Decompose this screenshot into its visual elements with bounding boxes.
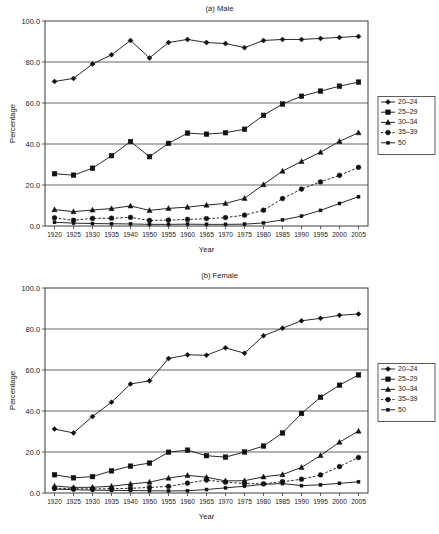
- marker-square: [223, 455, 228, 460]
- marker-square-small: [357, 195, 360, 198]
- x-tick-label: 1920: [47, 498, 62, 505]
- marker-circle: [356, 455, 361, 460]
- marker-square: [204, 453, 209, 458]
- marker-square: [242, 450, 247, 455]
- marker-diamond: [204, 40, 209, 45]
- x-tick-label: 1985: [275, 498, 290, 505]
- x-tick-label: 1940: [123, 498, 138, 505]
- x-tick-label: 1930: [85, 498, 100, 505]
- y-tick-label: 100.0: [22, 284, 41, 293]
- marker-square: [52, 472, 57, 477]
- marker-square: [318, 89, 323, 94]
- marker-square-small: [243, 223, 246, 226]
- marker-square-small: [205, 223, 208, 226]
- marker-square: [90, 474, 95, 479]
- x-tick-label: 1990: [294, 231, 309, 238]
- marker-square: [223, 130, 228, 135]
- marker-circle: [280, 196, 285, 201]
- marker-diamond: [299, 318, 304, 323]
- marker-square-small: [91, 222, 94, 225]
- marker-square: [386, 377, 391, 382]
- legend-label-25-29: 25–29: [398, 375, 418, 382]
- marker-square-small: [224, 223, 227, 226]
- marker-triangle: [356, 130, 361, 135]
- marker-square-small: [72, 222, 75, 225]
- marker-square: [280, 431, 285, 436]
- marker-triangle: [299, 465, 304, 470]
- marker-square-small: [129, 222, 132, 225]
- marker-diamond: [204, 353, 209, 358]
- x-tick-label: 1990: [294, 498, 309, 505]
- marker-diamond: [242, 45, 247, 50]
- legend-label-20-24: 20–24: [398, 365, 418, 372]
- marker-square-small: [186, 489, 189, 492]
- x-tick-label: 1965: [199, 498, 214, 505]
- marker-square-small: [262, 483, 265, 486]
- panel-male: (a) Male0.020.040.060.080.0100.019201925…: [0, 0, 439, 267]
- series-line-35-39: [55, 458, 359, 489]
- chart-female-plot: (b) Female0.020.040.060.080.0100.0192019…: [0, 267, 439, 534]
- x-tick-label: 1930: [85, 231, 100, 238]
- chart-female-svg: (b) Female0.020.040.060.080.0100.0192019…: [0, 267, 439, 534]
- marker-square: [386, 110, 391, 115]
- x-tick-label: 1965: [199, 231, 214, 238]
- marker-circle: [204, 478, 209, 483]
- x-tick-label: 1970: [218, 231, 233, 238]
- x-tick-label: 1970: [218, 498, 233, 505]
- marker-square: [71, 173, 76, 178]
- marker-diamond: [280, 37, 285, 42]
- y-tick-label: 20.0: [26, 181, 40, 190]
- x-tick-label: 2000: [332, 498, 347, 505]
- marker-diamond: [318, 36, 323, 41]
- marker-square: [109, 153, 114, 158]
- marker-circle: [204, 216, 209, 221]
- marker-circle: [242, 213, 247, 218]
- y-tick-label: 0.0: [30, 489, 40, 498]
- marker-square-small: [186, 223, 189, 226]
- marker-triangle: [261, 182, 266, 187]
- y-tick-label: 40.0: [26, 140, 40, 149]
- marker-square-small: [262, 221, 265, 224]
- panel-title: (a) Male: [206, 4, 234, 13]
- marker-square-small: [148, 489, 151, 492]
- marker-circle: [128, 215, 133, 220]
- marker-diamond: [223, 41, 228, 46]
- marker-diamond: [185, 37, 190, 42]
- marker-diamond: [280, 326, 285, 331]
- x-tick-label: 1960: [180, 498, 195, 505]
- marker-diamond: [52, 79, 57, 84]
- y-tick-label: 60.0: [26, 99, 40, 108]
- marker-circle: [147, 218, 152, 223]
- marker-circle: [337, 464, 342, 469]
- marker-square: [185, 448, 190, 453]
- marker-square: [147, 461, 152, 466]
- marker-circle: [90, 216, 95, 221]
- marker-circle: [318, 180, 323, 185]
- marker-circle: [386, 130, 391, 135]
- x-tick-label: 1920: [47, 231, 62, 238]
- x-tick-label: 1950: [142, 498, 157, 505]
- legend-box: [378, 364, 435, 422]
- y-tick-label: 20.0: [26, 448, 40, 457]
- x-tick-label: 1955: [161, 231, 176, 238]
- marker-triangle: [318, 453, 323, 458]
- marker-circle: [185, 217, 190, 222]
- marker-square-small: [205, 488, 208, 491]
- marker-square: [318, 395, 323, 400]
- marker-square: [166, 141, 171, 146]
- marker-triangle: [318, 149, 323, 154]
- legend-label-30-34: 30–34: [398, 385, 418, 392]
- panel-title: (b) Female: [201, 271, 238, 280]
- marker-square-small: [300, 215, 303, 218]
- marker-square-small: [72, 488, 75, 491]
- marker-diamond: [356, 34, 361, 39]
- marker-triangle: [128, 203, 133, 208]
- marker-square: [128, 464, 133, 469]
- marker-diamond: [185, 352, 190, 357]
- x-axis-title: Year: [199, 245, 215, 254]
- marker-circle: [318, 473, 323, 478]
- y-axis-title: Percentage: [8, 371, 17, 410]
- chart-male-plot: (a) Male0.020.040.060.080.0100.019201925…: [0, 0, 439, 267]
- legend-label-50: 50: [398, 139, 406, 146]
- marker-diamond: [223, 345, 228, 350]
